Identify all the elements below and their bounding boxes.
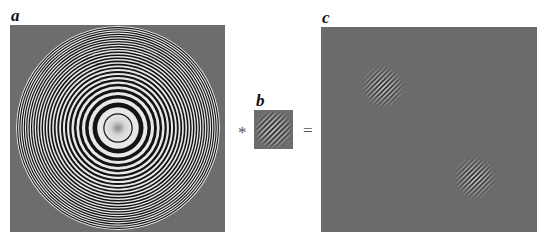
grating-kernel-image <box>254 110 293 149</box>
panel-c-label: c <box>322 9 330 26</box>
panel-b-label: b <box>256 92 265 109</box>
equals-operator: = <box>303 122 313 139</box>
convolution-operator: * <box>238 124 247 141</box>
zone-plate-image <box>10 25 225 232</box>
panel-a-zone-plate <box>10 25 225 232</box>
panel-a-label: a <box>11 7 20 24</box>
panel-c-result <box>321 27 537 232</box>
convolution-result-image <box>321 27 537 232</box>
panel-b-kernel <box>254 110 293 149</box>
